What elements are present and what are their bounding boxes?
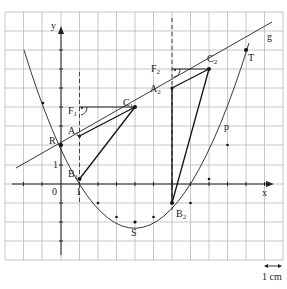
label-A1: A1 — [68, 125, 79, 138]
scale-indicator: 1 cm — [262, 264, 282, 282]
x-axis-arrow-icon — [266, 181, 274, 187]
point-C2 — [207, 67, 211, 71]
scale-arrow-right-icon — [278, 264, 282, 268]
label-F2: F2 — [151, 63, 161, 76]
scale-label: 1 cm — [262, 271, 282, 282]
x-axis-label: x — [262, 187, 267, 198]
label-R: R — [49, 135, 56, 146]
grid — [5, 12, 283, 260]
parabola-p — [24, 43, 249, 228]
point-F1 — [81, 107, 83, 109]
dashed-guides — [80, 18, 173, 210]
point-C1 — [133, 105, 137, 109]
y-unit-label: 1 — [53, 159, 58, 170]
x-unit-label: 1 — [76, 186, 81, 197]
scale-arrow-left-icon — [264, 264, 268, 268]
origin-label: 0 — [52, 186, 57, 197]
point-R — [59, 143, 63, 147]
point-A2 — [170, 86, 173, 89]
y-axis-label: y — [51, 20, 56, 31]
label-A2: A2 — [150, 83, 161, 96]
label-C1: C1 — [123, 97, 134, 110]
y-axis-arrow-icon — [58, 26, 64, 34]
line-g — [16, 22, 272, 168]
segment-B1-C1 — [80, 107, 136, 179]
label-p: p — [224, 121, 229, 132]
label-g: g — [267, 31, 272, 42]
label-B2: B2 — [176, 208, 187, 221]
point-B2 — [170, 201, 174, 205]
point-S — [133, 220, 136, 223]
parabola-diagram: y x 0 1 1 R S T g p A1 B1 C1 F1 A2 B2 C2… — [0, 0, 287, 289]
label-B1: B1 — [68, 168, 79, 181]
label-T: T — [248, 52, 254, 63]
labels: y x 0 1 1 R S T g p A1 B1 C1 F1 A2 B2 C2… — [49, 20, 272, 238]
construction-lines — [80, 69, 210, 203]
point-F2 — [174, 69, 176, 71]
label-S: S — [131, 227, 137, 238]
segment-A1-C1 — [80, 107, 136, 136]
